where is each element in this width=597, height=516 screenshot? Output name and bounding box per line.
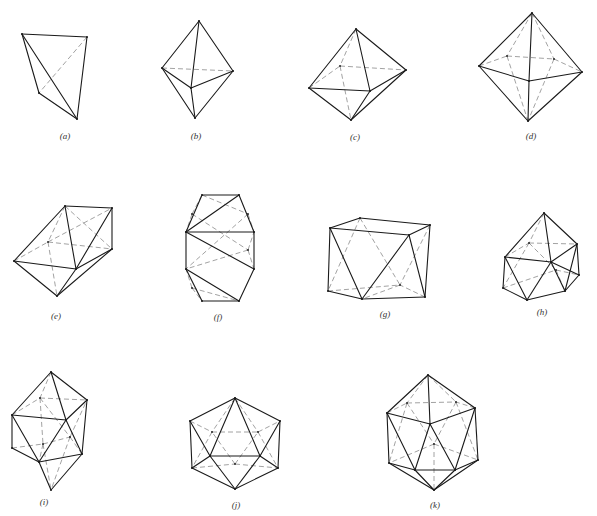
visible-edge [235,398,280,421]
hidden-edge [186,250,248,269]
vertex-dot [50,489,52,491]
vertex-dot [234,397,236,399]
visible-edge [551,262,565,291]
vertex-dot [64,205,66,207]
vertex-dot [75,268,77,270]
polyhedron-g [327,217,431,300]
vertex-dot [69,436,71,438]
vertex-dot [433,489,435,491]
hidden-edge [328,285,400,291]
vertex-dot [406,402,408,404]
vertex-dot [39,397,41,399]
vertex-dot [191,467,193,469]
visible-edge [434,470,455,490]
visible-edge [503,257,505,288]
visible-edge [409,235,425,297]
hidden-edge [400,285,425,297]
visible-edge [66,420,82,454]
visible-edge [192,456,210,468]
vertex-dot [238,300,240,302]
visible-edge [479,66,528,121]
vertex-dot [564,290,566,292]
vertex-dot [47,241,49,243]
vertex-dot [201,194,203,196]
hidden-edge [400,225,430,285]
vertex-dot [209,455,211,457]
visible-edge [22,34,39,93]
vertex-dot [528,242,530,244]
caption-d: (d) [526,131,537,141]
vertex-dot [424,296,426,298]
vertex-dot [76,118,78,120]
visible-edge [239,269,254,301]
visible-edge [309,88,351,120]
polyhedron-e [13,205,113,297]
visible-edge [235,456,260,489]
vertex-dot [429,423,431,425]
hidden-edge [529,243,577,244]
visible-edge [479,13,532,66]
hidden-edge [503,243,529,288]
vertex-dot [359,217,361,219]
vertex-dot [38,92,40,94]
hidden-edge [456,402,475,408]
vertex-dot [429,224,431,226]
hidden-edge [192,464,235,468]
visible-edge [330,218,360,228]
visible-edge [475,408,478,460]
vertex-dot [355,28,357,30]
visible-edge [235,398,260,456]
caption-g: (g) [380,309,391,319]
visible-edge [239,195,254,232]
hidden-edge [48,242,57,296]
caption-c: (c) [350,132,360,142]
vertex-dot [185,268,187,270]
visible-edge [577,244,579,275]
visible-edge [362,297,425,299]
hidden-edge [389,444,434,463]
visible-edge [387,413,389,463]
vertex-dot [13,260,15,262]
visible-edge [195,71,233,118]
vertex-dot [190,87,192,89]
vertex-dot [111,248,113,250]
hidden-edge [162,68,233,71]
visible-edge [428,375,430,424]
vertex-dot [506,55,508,57]
vertex-dot [38,461,40,463]
hidden-edge [387,403,407,413]
hidden-edge [258,432,278,468]
hidden-edge [235,464,278,468]
vertex-dot [433,443,435,445]
hidden-edge [212,432,235,464]
hidden-edge [12,444,43,448]
hidden-edge [65,206,112,249]
visible-edge [235,468,278,489]
vertex-dot [350,119,352,121]
vertex-dot [308,87,310,89]
vertex-dot [386,412,388,414]
vertex-dot [201,300,203,302]
vertex-dot [553,58,555,60]
hidden-edge [40,372,51,398]
vertex-dot [81,453,83,455]
vertex-dot [339,65,341,67]
caption-k: (k) [430,500,440,510]
visible-edge [387,413,430,424]
vertex-dot [408,234,410,236]
vertex-dot [329,227,331,229]
visible-edge [12,372,51,415]
vertex-dot [369,90,371,92]
polyhedron-c [308,28,407,121]
hidden-edge [529,243,556,270]
visible-edge [551,262,579,275]
visible-edge [430,408,475,424]
hidden-edge [212,398,235,432]
visible-edge [455,408,475,470]
hidden-edge [43,437,70,444]
hidden-edge [505,243,529,257]
visible-edge [360,218,430,225]
vertex-dot [211,431,213,433]
visible-edge [330,228,362,299]
vertex-dot [21,33,23,35]
